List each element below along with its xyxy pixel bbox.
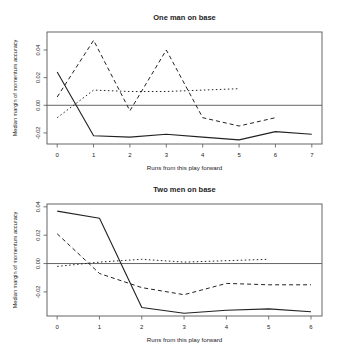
x-tick-label: 5 — [237, 152, 241, 158]
y-axis: -0.020.000.020.04Median margin of moment… — [12, 39, 47, 139]
series-dotted-line — [57, 89, 239, 118]
series-dashed-line — [57, 234, 311, 295]
chart-title: One man on base — [153, 13, 216, 22]
y-tick-label: 0.04 — [35, 45, 41, 56]
series-dashed-line — [57, 40, 275, 126]
x-tick-label: 0 — [55, 324, 59, 330]
series-dotted-line — [57, 259, 269, 266]
chart-one-man-on-base: One man on base01234567Runs from this pl… — [12, 13, 322, 171]
figure: One man on base01234567Runs from this pl… — [0, 0, 342, 356]
x-axis-label: Runs from this play forward — [147, 164, 223, 171]
x-tick-label: 3 — [165, 152, 169, 158]
y-tick-label: 0.00 — [35, 100, 41, 111]
x-axis: 0123456Runs from this play forward — [55, 316, 313, 343]
x-tick-label: 4 — [225, 324, 229, 330]
series-solid-line — [57, 72, 312, 140]
x-tick-label: 3 — [182, 324, 186, 330]
x-tick-label: 6 — [309, 324, 313, 330]
y-tick-label: -0.02 — [35, 286, 41, 299]
x-tick-label: 2 — [128, 152, 132, 158]
x-tick-label: 1 — [98, 324, 102, 330]
y-axis-label: Median margin of momentum accuracy — [12, 211, 18, 308]
x-tick-label: 2 — [140, 324, 144, 330]
chart-two-men-on-base: Two men on base0123456Runs from this pla… — [12, 185, 322, 343]
x-tick-label: 7 — [310, 152, 314, 158]
y-tick-label: 0.02 — [35, 230, 41, 241]
x-axis-label: Runs from this play forward — [147, 336, 223, 343]
y-axis-label: Median margin of momentum accuracy — [12, 39, 18, 136]
y-axis: -0.020.000.020.04Median margin of moment… — [12, 201, 47, 308]
y-tick-label: 0.04 — [35, 201, 41, 212]
x-tick-label: 0 — [56, 152, 60, 158]
x-tick-label: 6 — [274, 152, 278, 158]
series-solid-line — [57, 211, 311, 313]
y-tick-label: 0.02 — [35, 72, 41, 83]
x-tick-label: 4 — [201, 152, 205, 158]
y-tick-label: -0.02 — [35, 127, 41, 140]
y-tick-label: 0.00 — [35, 258, 41, 269]
plot-frame — [47, 204, 322, 316]
chart-title: Two men on base — [153, 185, 215, 194]
x-tick-label: 1 — [92, 152, 96, 158]
x-axis: 01234567Runs from this play forward — [56, 144, 315, 171]
x-tick-label: 5 — [267, 324, 271, 330]
